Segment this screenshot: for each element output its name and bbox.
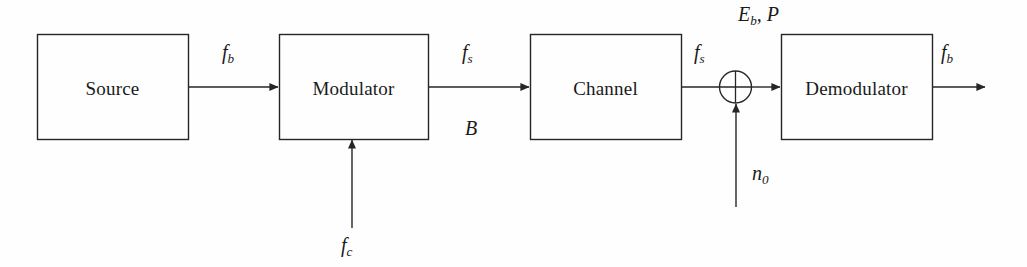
signal-sub: s bbox=[468, 51, 473, 66]
signal-suffix: , P bbox=[757, 3, 779, 25]
signal-label-bandwidth: B bbox=[465, 118, 477, 138]
signal-base: E bbox=[738, 3, 750, 25]
block-diagram: Source Modulator Channel Demodulator fb … bbox=[0, 0, 1027, 267]
signal-sub: c bbox=[347, 244, 353, 259]
signal-base: B bbox=[465, 117, 477, 139]
signal-label-fs-modulator: fs bbox=[462, 42, 473, 62]
signal-sub: s bbox=[700, 51, 705, 66]
signal-sub: 0 bbox=[762, 172, 769, 187]
signal-sub: b bbox=[228, 51, 235, 66]
signal-label-fs-channel: fs bbox=[694, 42, 705, 62]
block-label-channel: Channel bbox=[530, 78, 681, 100]
signal-label-energy-power: Eb, P bbox=[738, 4, 779, 24]
signal-label-carrier: fc bbox=[341, 235, 352, 255]
diagram-canvas bbox=[0, 0, 1027, 267]
signal-label-noise: n0 bbox=[752, 163, 769, 183]
signal-sub: b bbox=[750, 13, 757, 28]
signal-label-fb-input: fb bbox=[222, 42, 234, 62]
signal-base: n bbox=[752, 162, 762, 184]
block-label-demodulator: Demodulator bbox=[781, 78, 932, 100]
block-label-modulator: Modulator bbox=[279, 78, 428, 100]
block-label-source: Source bbox=[37, 78, 188, 100]
signal-label-fb-output: fb bbox=[941, 42, 953, 62]
signal-sub: b bbox=[947, 51, 954, 66]
